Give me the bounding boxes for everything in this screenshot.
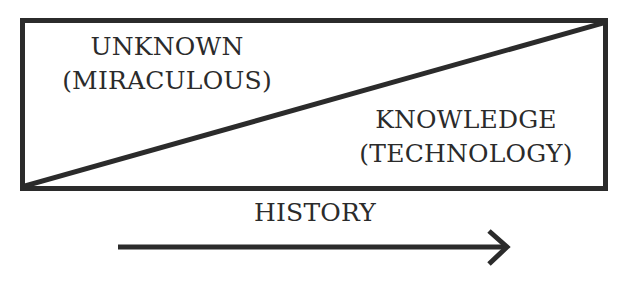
unknown-subtitle: (MIRACULOUS) [42, 64, 292, 98]
history-axis-label: HISTORY [240, 196, 390, 230]
unknown-title: UNKNOWN [42, 30, 292, 64]
history-title: HISTORY [240, 196, 390, 230]
unknown-region-label: UNKNOWN (MIRACULOUS) [42, 30, 292, 98]
knowledge-region-label: KNOWLEDGE (TECHNOLOGY) [346, 103, 586, 171]
knowledge-title: KNOWLEDGE [346, 103, 586, 137]
knowledge-subtitle: (TECHNOLOGY) [346, 137, 586, 171]
